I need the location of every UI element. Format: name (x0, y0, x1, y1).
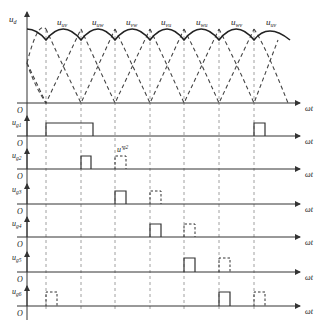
svg-text:ωt: ωt (305, 307, 314, 316)
svg-text:uvu: uvu (161, 17, 171, 28)
svg-text:uwu: uwu (196, 17, 208, 28)
svg-text:ug6: ug6 (12, 287, 22, 297)
trigger-timing-diagram: uuv uuw uvw uvu uwu uwv uuv ud ωt O ug1 … (0, 0, 332, 335)
svg-text:uuv: uuv (57, 17, 68, 28)
commutation-guides (46, 30, 254, 310)
svg-text:ug5: ug5 (12, 253, 22, 263)
pulse-row-g4: ug4 ωt O (12, 217, 314, 249)
pulse-row-g6: ug6 ωt O (12, 286, 314, 318)
pulse-row-g2: ug2 ωt O u'g2 (12, 144, 314, 181)
svg-text:ωt: ωt (305, 137, 314, 146)
svg-text:uuv: uuv (266, 17, 277, 28)
pulse-row-g5: ug5 ωt O (12, 252, 314, 284)
svg-text:uuw: uuw (92, 17, 104, 28)
svg-text:uvw: uvw (126, 17, 137, 28)
pulse-row-g3: ug3 ωt O (12, 184, 314, 216)
svg-text:O: O (17, 309, 23, 318)
svg-text:O: O (17, 172, 23, 181)
svg-text:O: O (17, 275, 23, 284)
svg-text:ug4: ug4 (12, 219, 22, 229)
line-voltage-labels: uuv uuw uvw uvu uwu uwv uuv (57, 17, 277, 28)
rectified-output-envelope (27, 29, 290, 40)
svg-text:uwv: uwv (231, 17, 243, 28)
svg-text:ωt: ωt (305, 238, 314, 247)
svg-text:ωt: ωt (305, 170, 314, 179)
svg-text:O: O (17, 240, 23, 249)
u-prime-g2-label: u'g2 (117, 144, 128, 154)
svg-text:ug1: ug1 (12, 118, 22, 128)
waveform-wt-label: ωt (305, 104, 314, 113)
line-voltage-dashed-arcs (27, 27, 288, 103)
svg-text:O: O (17, 139, 23, 148)
origin-label: O (17, 106, 23, 115)
svg-text:ug2: ug2 (12, 151, 22, 161)
pulse-row-g1: ug1 ωt O (12, 116, 314, 148)
svg-text:O: O (17, 207, 23, 216)
svg-text:ug3: ug3 (12, 185, 22, 195)
svg-text:ωt: ωt (305, 205, 314, 214)
ud-axis-label: ud (9, 14, 18, 25)
svg-text:ωt: ωt (305, 273, 314, 282)
